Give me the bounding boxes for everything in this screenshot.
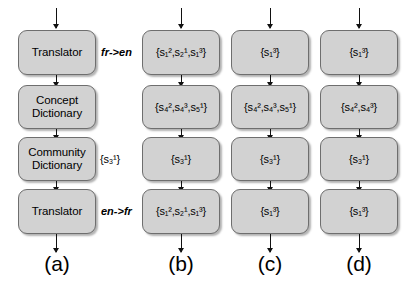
node-c-row1: {s₁³}	[231, 30, 309, 75]
node-a-concept-dictionary: Concept Dictionary	[18, 85, 96, 129]
node-a-translator-fr-en: Translator	[18, 30, 96, 75]
node-d-row2: {s₄²,s₄³}	[320, 85, 398, 129]
node-b-row1: {s₁²,s₂¹,s₁³}	[142, 30, 220, 75]
node-label: Translator	[32, 46, 82, 59]
node-label: Translator	[32, 205, 82, 218]
outflow-arrow-d	[359, 234, 360, 252]
node-c-row2: {s₄²,s₄³,s₅¹}	[231, 85, 309, 129]
outflow-arrow-c	[270, 234, 271, 252]
node-b-row3: {s₃¹}	[142, 137, 220, 181]
node-a-translator-en-fr: Translator	[18, 189, 96, 234]
set-expression: {s₁³}	[349, 205, 368, 217]
node-b-row4: {s₁²,s₂¹,s₁³}	[142, 189, 220, 234]
annotation-en-to-fr: en->fr	[101, 205, 132, 217]
set-expression: {s₁³}	[260, 205, 279, 217]
set-expression: {s₁²,s₂¹,s₁³}	[156, 46, 206, 58]
column-caption-a: (a)	[32, 252, 82, 276]
node-d-row3: {s₃¹}	[320, 137, 398, 181]
node-d-row4: {s₁³}	[320, 189, 398, 234]
inflow-arrow-b	[181, 8, 182, 28]
node-label: Community Dictionary	[28, 146, 85, 172]
node-d-row1: {s₁³}	[320, 30, 398, 75]
inflow-arrow-d	[359, 8, 360, 28]
set-expression: {s₄²,s₄³}	[341, 101, 377, 113]
outflow-arrow-a	[56, 234, 57, 252]
node-a-community-dictionary: Community Dictionary	[18, 137, 96, 181]
annotation-fr-to-en: fr->en	[101, 46, 132, 58]
set-expression: {s₄²,s₄³,s₅¹}	[155, 101, 207, 113]
annotation-community-set: {s₃¹}	[100, 153, 120, 165]
node-c-row4: {s₁³}	[231, 189, 309, 234]
inflow-arrow-c	[270, 8, 271, 28]
set-expression: {s₁²,s₂¹,s₁³}	[156, 205, 206, 217]
set-expression: {s₄²,s₄³,s₅¹}	[244, 101, 296, 113]
outflow-arrow-b	[181, 234, 182, 252]
set-expression: {s₃¹}	[349, 153, 369, 165]
column-caption-b: (b)	[156, 252, 206, 276]
set-expression: {s₃¹}	[260, 153, 280, 165]
set-expression: {s₁³}	[349, 46, 368, 58]
node-label: Concept Dictionary	[32, 94, 82, 120]
node-b-row2: {s₄²,s₄³,s₅¹}	[142, 85, 220, 129]
set-expression: {s₁³}	[260, 46, 279, 58]
column-caption-c: (c)	[245, 252, 295, 276]
column-caption-d: (d)	[334, 252, 384, 276]
node-c-row3: {s₃¹}	[231, 137, 309, 181]
inflow-arrow-a	[56, 8, 57, 28]
set-expression: {s₃¹}	[171, 153, 191, 165]
figure-canvas: Translator fr->en Concept Dictionary Com…	[0, 0, 417, 286]
